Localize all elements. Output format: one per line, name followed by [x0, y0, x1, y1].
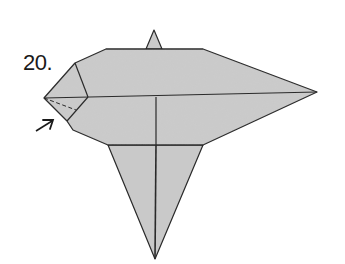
top-spike	[146, 30, 162, 49]
crease-vertical-tail	[155, 145, 156, 259]
origami-diagram	[0, 0, 345, 264]
arrow-up-right-icon	[36, 120, 53, 131]
